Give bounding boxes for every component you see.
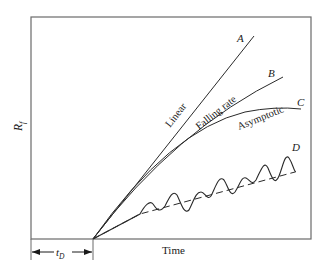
curve-d-trend <box>93 172 295 239</box>
y-axis-label: Rf <box>12 120 27 132</box>
y-axis-label-sub: f <box>18 120 27 124</box>
curve-d-oscillating <box>93 157 296 239</box>
falling-rate-label: Falling rate <box>193 93 238 131</box>
x-axis-label: Time <box>162 244 185 256</box>
curve-b-falling-rate <box>93 77 283 239</box>
linear-label: Linear <box>163 100 189 129</box>
asymptotic-label: Asymptotic <box>236 103 286 132</box>
svg-text:Rf: Rf <box>12 120 27 132</box>
delay-label-sub: D <box>58 252 65 261</box>
curve-letter-c: C <box>297 96 305 108</box>
curve-letter-b: B <box>268 67 275 79</box>
delay-label: tD <box>56 246 65 261</box>
curve-letter-d: D <box>291 141 300 153</box>
y-axis-label-main: R <box>12 124 24 132</box>
fouling-resistance-diagram: Linear Falling rate Asymptotic A B C D R… <box>0 0 328 270</box>
curve-letter-a: A <box>236 32 244 44</box>
